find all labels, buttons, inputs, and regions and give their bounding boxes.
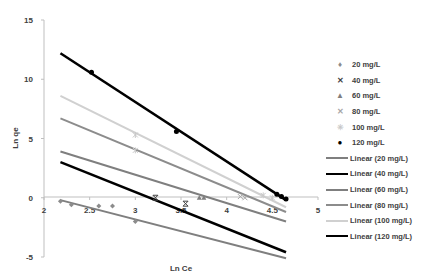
x-tick-label: 5 bbox=[316, 206, 321, 215]
legend-item: Linear (40 mg/L) bbox=[326, 166, 412, 182]
y-tick-label: -5 bbox=[26, 253, 34, 262]
legend-item: Linear (20 mg/L) bbox=[326, 151, 412, 167]
trendline bbox=[60, 118, 286, 212]
legend-label: 120 mg/L bbox=[352, 138, 385, 147]
y-axis-title: Ln qe bbox=[11, 127, 20, 149]
data-point bbox=[133, 132, 138, 138]
legend-line-icon bbox=[326, 204, 348, 206]
data-points bbox=[58, 70, 289, 224]
data-point bbox=[96, 204, 101, 209]
legend-label: 60 mg/L bbox=[352, 91, 380, 100]
legend-label: 80 mg/L bbox=[352, 107, 380, 116]
legend-item: ✕40 mg/L bbox=[328, 73, 412, 89]
data-point bbox=[242, 195, 247, 200]
x-tick-label: 3 bbox=[133, 206, 138, 215]
legend-line-icon bbox=[326, 157, 348, 159]
legend: ♦20 mg/L✕40 mg/L▲60 mg/L✕80 mg/L✳100 mg/… bbox=[328, 57, 412, 244]
legend-item: ♦20 mg/L bbox=[328, 57, 412, 73]
legend-label: Linear (20 mg/L) bbox=[350, 154, 408, 163]
axis-ticks: 22.533.544.55151050-5 bbox=[24, 16, 321, 262]
trendline bbox=[60, 53, 286, 200]
y-tick-label: 0 bbox=[29, 194, 34, 203]
legend-item: ✕80 mg/L bbox=[328, 104, 412, 120]
legend-marker-icon: ♦ bbox=[328, 60, 352, 69]
x-tick-label: 4 bbox=[224, 206, 229, 215]
legend-marker-icon: ▲ bbox=[328, 91, 352, 100]
x-tick-label: 2 bbox=[42, 206, 47, 215]
data-point bbox=[89, 70, 94, 75]
legend-line-icon bbox=[326, 189, 348, 191]
legend-line-icon bbox=[326, 220, 348, 222]
legend-label: 20 mg/L bbox=[352, 60, 380, 69]
y-tick-label: 10 bbox=[24, 75, 33, 84]
legend-marker-icon: ● bbox=[328, 138, 352, 147]
data-point bbox=[274, 192, 279, 197]
legend-marker-icon: ✕ bbox=[328, 76, 352, 85]
trendline bbox=[60, 96, 286, 207]
legend-markers: ♦20 mg/L✕40 mg/L▲60 mg/L✕80 mg/L✳100 mg/… bbox=[328, 57, 412, 151]
data-point bbox=[284, 196, 289, 201]
legend-item: ▲60 mg/L bbox=[328, 88, 412, 104]
legend-marker-icon: ✳ bbox=[328, 123, 352, 132]
legend-label: Linear (120 mg/L) bbox=[350, 232, 412, 241]
legend-label: Linear (80 mg/L) bbox=[350, 201, 408, 210]
legend-line-icon bbox=[326, 173, 348, 175]
legend-label: Linear (40 mg/L) bbox=[350, 169, 408, 178]
trendline bbox=[60, 200, 286, 258]
data-point bbox=[110, 204, 115, 209]
legend-item: Linear (60 mg/L) bbox=[326, 182, 412, 198]
y-tick-label: 5 bbox=[29, 135, 34, 144]
legend-item: ●120 mg/L bbox=[328, 135, 412, 151]
legend-label: Linear (100 mg/L) bbox=[350, 216, 412, 225]
data-point bbox=[174, 129, 179, 134]
legend-item: Linear (120 mg/L) bbox=[326, 229, 412, 245]
y-tick-label: 15 bbox=[24, 16, 33, 25]
legend-label: Linear (60 mg/L) bbox=[350, 185, 408, 194]
x-axis-title: Ln Ce bbox=[170, 264, 193, 273]
data-point bbox=[279, 194, 284, 199]
legend-label: 40 mg/L bbox=[352, 76, 380, 85]
legend-lines: Linear (20 mg/L)Linear (40 mg/L)Linear (… bbox=[328, 151, 412, 245]
data-point bbox=[270, 195, 275, 201]
legend-item: Linear (100 mg/L) bbox=[326, 213, 412, 229]
legend-item: ✳100 mg/L bbox=[328, 119, 412, 135]
legend-label: 100 mg/L bbox=[352, 123, 385, 132]
trendlines bbox=[60, 53, 286, 258]
legend-item: Linear (80 mg/L) bbox=[326, 197, 412, 213]
legend-line-icon bbox=[326, 235, 348, 237]
legend-marker-icon: ✕ bbox=[328, 107, 352, 116]
